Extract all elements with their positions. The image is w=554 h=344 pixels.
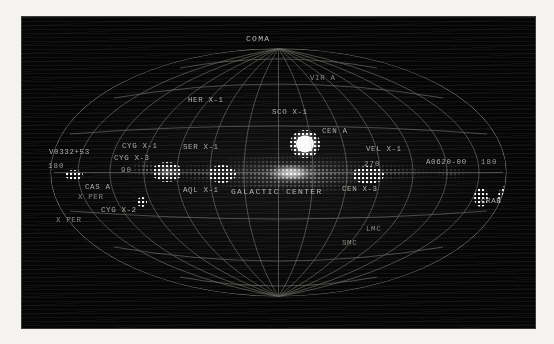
longitude-tick-270: 270 [364, 160, 381, 168]
source-label-aql-x1: AQL X-1 [183, 186, 219, 194]
source-blob-cas-a [137, 197, 147, 207]
source-label-vel-x1: VEL X-1 [366, 145, 402, 153]
longitude-tick-180-left: 180 [48, 162, 65, 170]
source-label-her-x1: HER X-1 [188, 96, 224, 104]
longitude-tick-90: 90 [121, 166, 132, 174]
source-label-vir-a: VIR A [310, 74, 336, 82]
source-blob-ser-x1 [208, 165, 236, 183]
source-label-sco-x1: SCO X-1 [272, 108, 308, 116]
source-label-cas-a: CAS A [85, 183, 111, 191]
source-label-x-per-upper: X PER [78, 193, 104, 201]
longitude-tick-180-right: 180 [481, 158, 498, 166]
source-label-cen-a: CEN A [322, 127, 348, 135]
source-label-v0332-53: V0332+53 [49, 148, 90, 156]
source-label-lmc: LMC [366, 225, 381, 233]
source-label-x-per-lower: X PER [56, 216, 82, 224]
source-blob-left-plane [65, 170, 83, 180]
source-label-cen-x3: CEN X-3 [342, 185, 378, 193]
source-blob-sco-x1 [288, 128, 322, 160]
source-label-a0620-00: A0620-00 [426, 158, 467, 166]
source-label-cyg-x2: CYG X-2 [101, 206, 137, 214]
figure-page: COMA VIR A HER X-1 SCO X-1 CEN A V0332+5… [0, 0, 554, 344]
sky-map-plate: COMA VIR A HER X-1 SCO X-1 CEN A V0332+5… [22, 17, 535, 328]
source-label-ser-x1: SER X-1 [183, 143, 219, 151]
source-label-cyg-x1: CYG X-1 [122, 142, 158, 150]
source-label-crab: CRAB [481, 197, 501, 205]
source-blob-cyg-x1 [151, 161, 183, 183]
source-label-galactic-center: GALACTIC CENTER [231, 187, 323, 196]
source-label-cyg-x3: CYG X-3 [114, 154, 150, 162]
source-label-coma: COMA [246, 34, 270, 43]
source-label-smc: SMC [342, 239, 357, 247]
aitoff-sky-chart [22, 17, 535, 328]
